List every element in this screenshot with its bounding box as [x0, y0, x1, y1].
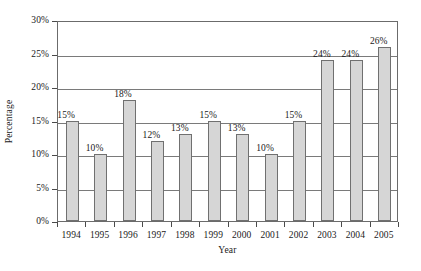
y-axis-tick-label: 5%	[5, 184, 49, 194]
x-axis-tick	[114, 222, 115, 227]
x-axis-tick	[228, 222, 229, 227]
y-axis-tick-label: 10%	[5, 150, 49, 160]
bar	[321, 60, 334, 221]
bar-value-label: 26%	[362, 36, 396, 46]
x-axis-tick	[370, 222, 371, 227]
y-axis-tick	[52, 55, 57, 56]
gridline	[58, 156, 397, 157]
y-axis-tick-label: 15%	[5, 117, 49, 127]
bar	[350, 60, 363, 221]
bar	[151, 141, 164, 221]
gridline	[58, 190, 397, 191]
bar	[94, 154, 107, 221]
y-axis-tick	[52, 155, 57, 156]
bar-value-label: 18%	[106, 89, 140, 99]
bar-value-label: 15%	[191, 110, 225, 120]
bar-value-label: 10%	[248, 143, 282, 153]
x-axis-tick	[57, 222, 58, 227]
y-axis-tick	[52, 21, 57, 22]
x-axis-tick	[85, 222, 86, 227]
bar	[179, 134, 192, 221]
bar	[123, 100, 136, 221]
bar-value-label: 24%	[333, 49, 367, 59]
x-axis-tick	[171, 222, 172, 227]
x-axis-tick	[398, 222, 399, 227]
bar-value-label: 13%	[220, 123, 254, 133]
bar-value-label: 13%	[163, 123, 197, 133]
x-axis-title: Year	[57, 245, 398, 256]
bar	[66, 121, 79, 222]
x-axis-tick	[284, 222, 285, 227]
x-axis-tick	[256, 222, 257, 227]
y-axis-tick	[52, 189, 57, 190]
bar	[293, 121, 306, 222]
x-axis-tick	[142, 222, 143, 227]
y-axis-tick-label: 30%	[5, 16, 49, 26]
y-axis-tick	[52, 88, 57, 89]
bar-value-label: 15%	[277, 110, 311, 120]
x-axis-tick	[313, 222, 314, 227]
y-axis-tick-label: 25%	[5, 50, 49, 60]
bar-value-label: 15%	[49, 110, 83, 120]
x-axis-tick	[341, 222, 342, 227]
y-axis-tick-label: 0%	[5, 217, 49, 227]
bar-value-label: 10%	[78, 143, 112, 153]
bar	[208, 121, 221, 222]
y-axis-tick-label: 20%	[5, 83, 49, 93]
x-axis-tick	[199, 222, 200, 227]
bar	[265, 154, 278, 221]
bar	[378, 47, 391, 221]
y-axis-tick	[52, 122, 57, 123]
bar-chart: Percentage Year 0%5%10%15%20%25%30%15%19…	[0, 0, 421, 271]
x-axis-tick-label: 2005	[364, 230, 404, 241]
